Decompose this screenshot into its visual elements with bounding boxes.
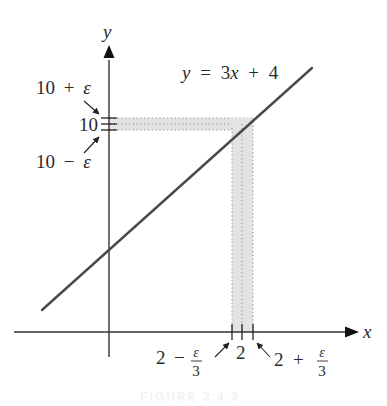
x-right-label: 2 + ε 3: [274, 345, 328, 379]
x-axis: [14, 324, 359, 340]
svg-text:−: −: [174, 347, 185, 368]
y-axis-arrowhead-icon: [104, 45, 115, 58]
svg-text:3: 3: [318, 363, 326, 379]
x-axis-label: x: [362, 321, 372, 342]
x-delta-band: [232, 118, 253, 332]
x-left-arrow-icon: [215, 343, 229, 357]
y-upper-label: 10 + ε: [36, 77, 91, 98]
svg-text:ε: ε: [193, 345, 199, 360]
svg-text:2: 2: [274, 349, 284, 370]
svg-text:ε: ε: [319, 345, 325, 360]
x-axis-arrowhead-icon: [345, 327, 359, 338]
function-line: [42, 68, 312, 310]
y-upper-arrow-icon: [84, 101, 99, 114]
svg-text:3: 3: [192, 363, 200, 379]
x-center-label: 2: [236, 342, 246, 363]
epsilon-delta-figure: y x y = 3x + 4 10 + ε 10 10 − ε 2 − ε 3 …: [0, 0, 387, 406]
x-right-arrow-icon: [257, 343, 270, 357]
y-lower-label: 10 − ε: [36, 151, 91, 172]
y-center-label: 10: [79, 114, 98, 135]
y-epsilon-band: [110, 118, 252, 130]
y-axis: [101, 45, 117, 357]
y-lower-arrow-icon: [84, 137, 99, 153]
y-axis-label: y: [101, 21, 112, 42]
x-left-label: 2 − ε 3: [156, 345, 202, 379]
equation-label: y = 3x + 4: [180, 62, 279, 83]
figure-caption: FIGURE 2.4.3: [140, 390, 239, 404]
svg-text:2: 2: [156, 347, 166, 368]
svg-text:+: +: [293, 349, 304, 370]
